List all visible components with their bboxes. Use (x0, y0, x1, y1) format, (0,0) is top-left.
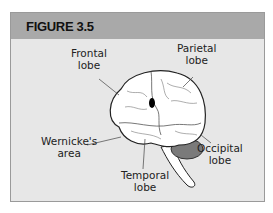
label-wernickes-area: Wernicke's area (41, 135, 97, 159)
cerebrum-shape (110, 71, 205, 147)
label-occipital-line1: Occipital (197, 142, 243, 154)
label-wernicke-line2: area (41, 147, 97, 159)
label-frontal-lobe: Frontal lobe (71, 47, 107, 71)
region-marker (149, 98, 155, 108)
label-parietal-line1: Parietal (177, 42, 216, 54)
brain-diagram: Frontal lobe Parietal lobe Wernicke's ar… (11, 39, 264, 202)
label-occipital-line2: lobe (197, 154, 243, 166)
label-temporal-line1: Temporal (121, 169, 169, 181)
figure-title: FIGURE 3.5 (26, 19, 94, 34)
label-frontal-line2: lobe (71, 59, 107, 71)
label-frontal-line1: Frontal (71, 47, 107, 59)
label-parietal-lobe: Parietal lobe (177, 42, 216, 66)
figure-frame: FIGURE 3.5 (10, 12, 265, 202)
label-temporal-lobe: Temporal lobe (121, 169, 169, 193)
label-parietal-line2: lobe (177, 54, 216, 66)
label-temporal-line2: lobe (121, 181, 169, 193)
label-wernicke-line1: Wernicke's (41, 135, 97, 147)
label-occipital-lobe: Occipital lobe (197, 142, 243, 166)
figure-header: FIGURE 3.5 (11, 13, 264, 39)
